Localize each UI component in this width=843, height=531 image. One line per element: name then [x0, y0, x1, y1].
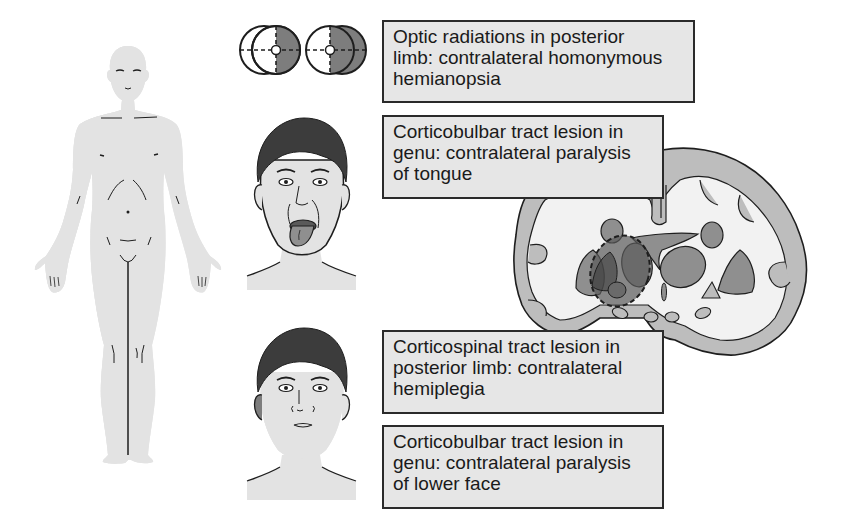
- label-line: of lower face: [393, 473, 654, 494]
- label-line: limb: contralateral homonymous: [393, 47, 685, 68]
- label-line: posterior limb: contralateral: [393, 357, 654, 378]
- label-corticobulbar-lower-face: Corticobulbar tract lesion in genu: cont…: [382, 425, 664, 509]
- right-eye-field-icon: [306, 26, 366, 74]
- label-line: Corticospinal tract lesion in: [393, 336, 654, 357]
- left-eye-field-icon: [240, 26, 300, 74]
- face-tongue-figure: [247, 118, 356, 290]
- label-corticobulbar-tongue: Corticobulbar tract lesion in genu: cont…: [382, 115, 664, 199]
- label-optic-radiations: Optic radiations in posterior limb: cont…: [382, 20, 695, 103]
- label-line: hemiplegia: [393, 378, 654, 399]
- label-line: genu: contralateral paralysis: [393, 452, 654, 473]
- label-corticospinal-hemiplegia: Corticospinal tract lesion in posterior …: [382, 330, 664, 414]
- face-lower-paralysis-figure: [247, 328, 356, 500]
- label-line: hemianopsia: [393, 68, 685, 89]
- visual-field-diagrams: [240, 26, 366, 74]
- label-line: of tongue: [393, 163, 654, 184]
- label-line: Optic radiations in posterior: [393, 26, 685, 47]
- whole-body-figure: [35, 46, 221, 464]
- label-line: Corticobulbar tract lesion in: [393, 431, 654, 452]
- label-line: Corticobulbar tract lesion in: [393, 121, 654, 142]
- label-line: genu: contralateral paralysis: [393, 142, 654, 163]
